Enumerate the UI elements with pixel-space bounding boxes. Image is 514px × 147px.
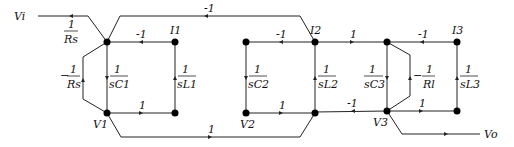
signal-flow-graph: Vi I1 I2 I3 V1 V2 V3 Vo -1 -1 -1 1 -1 1 … [0,0,514,147]
arrow-icon [313,76,317,80]
gain-i2-mid: -1 [276,28,287,41]
gain-rs-loop: − 1 Rs [60,63,81,91]
svg-text:1: 1 [369,63,376,76]
svg-text:Rl: Rl [422,78,435,91]
label-i3: I3 [451,24,463,37]
gain-v2-i2: 1 [279,99,286,112]
node-v1 [104,110,111,117]
arrow-icon [455,76,459,80]
svg-text:sL1: sL1 [177,78,197,91]
node-i1 [172,39,179,46]
gain-i2b-v3: -1 [347,97,358,110]
svg-text:sC2: sC2 [248,78,269,91]
svg-text:1: 1 [254,63,261,76]
svg-text:1: 1 [68,18,75,31]
node-v3-top [384,39,391,46]
gain-l3: 1 sL3 [460,63,480,91]
label-v3: V3 [373,116,388,129]
gain-i3-v3node: -1 [418,28,429,41]
arrow-icon [385,76,389,80]
gain-i2-v3node: 1 [350,28,357,41]
node-v2 [243,110,250,117]
arrow-icon [81,78,85,82]
gain-bottom-long: 1 [208,123,215,136]
svg-text:sL2: sL2 [318,78,338,91]
svg-text:1: 1 [323,63,330,76]
gain-c3: 1 sC3 [364,63,385,91]
gain-top-long: -1 [204,2,215,15]
gain-c1: 1 sC1 [109,63,130,91]
label-vo: Vo [484,128,498,141]
svg-text:sL3: sL3 [460,78,480,91]
gain-vi-rs: 1 Rs [63,18,78,46]
label-i2: I2 [309,24,321,37]
edge-i2bottom-v3 [315,111,387,112]
node-i3-bottom [454,108,461,115]
node-v3 [384,108,391,115]
node-i3 [454,39,461,46]
gain-l2: 1 sL2 [318,63,338,91]
gain-l1: 1 sL1 [177,63,197,91]
label-i1: I1 [169,24,181,37]
node-mid-top [243,39,250,46]
edge-v3-to-vo [387,111,480,134]
node-i1-bottom [172,110,179,117]
gain-v1-i1: 1 [139,99,146,112]
label-vi: Vi [14,10,25,23]
svg-text:1: 1 [114,63,121,76]
gain-v3-i3: 1 [419,97,426,110]
arrow-icon [444,132,448,136]
label-v1: V1 [93,118,108,131]
svg-text:sC3: sC3 [364,78,385,91]
svg-text:1: 1 [70,63,77,76]
gain-rl-loop: − 1 Rl [413,63,435,91]
arrow-icon [408,76,412,80]
gain-i1-node: -1 [136,28,147,41]
svg-text:Rs: Rs [63,33,78,46]
edge-rs-loop [83,42,107,113]
svg-text:1: 1 [182,63,189,76]
gain-c2: 1 sC2 [248,63,269,91]
svg-text:−: − [413,69,422,82]
svg-text:Rs: Rs [66,78,81,91]
node-i2 [312,39,319,46]
node-i2-bottom [312,110,319,117]
label-v2: V2 [240,118,255,131]
svg-text:1: 1 [426,63,433,76]
node-top-left [104,39,111,46]
svg-text:1: 1 [465,63,472,76]
edge-rl-loop [387,42,410,111]
svg-text:sC1: sC1 [109,78,130,91]
